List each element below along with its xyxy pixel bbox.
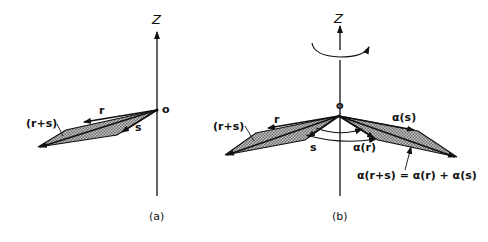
caption-a: (a) — [149, 211, 164, 222]
vector-r-label-a: r — [99, 105, 104, 116]
origin-label-b: o — [336, 100, 344, 111]
vector-s-label-b: s — [310, 142, 317, 153]
origin-dot-b — [337, 114, 340, 117]
origin-dot-a — [155, 108, 158, 111]
origin-label-a: o — [162, 104, 170, 115]
caption-b: (b) — [332, 211, 348, 222]
sum-label-a: (r+s) — [26, 118, 57, 129]
sum-label-b: (r+s) — [213, 121, 244, 132]
vector-s-label-a: s — [135, 122, 142, 133]
z-axis-label-b: Z — [334, 12, 343, 25]
alpha-s-label: α(s) — [392, 112, 416, 123]
rotation-arc-inner — [316, 128, 362, 133]
equation-pointer — [405, 147, 411, 170]
z-axis-label-a: Z — [152, 13, 161, 26]
alpha-r-label: α(r) — [353, 142, 376, 153]
vector-r-label-b: r — [274, 114, 279, 125]
linearity-equation: α(r+s) = α(r) + α(s) — [357, 170, 477, 181]
